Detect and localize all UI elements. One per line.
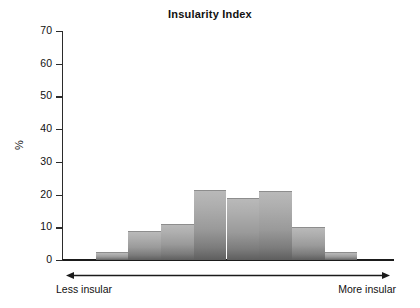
- y-axis-tick: [56, 129, 63, 130]
- y-axis-label: %: [13, 140, 25, 150]
- y-axis-tick: [56, 96, 63, 97]
- y-axis-tick: [56, 260, 63, 261]
- y-axis-tick: [56, 162, 63, 163]
- histogram-bar: [128, 231, 161, 260]
- y-axis-tick-label: 40: [18, 123, 52, 134]
- axis-end-label-less-insular: Less insular: [56, 283, 112, 295]
- y-axis-tick-label: 20: [18, 189, 52, 200]
- y-axis-tick-label: 60: [18, 58, 52, 69]
- histogram-bar: [194, 190, 227, 260]
- y-axis-tick-label: 0: [18, 254, 52, 265]
- y-axis-tick: [56, 64, 63, 65]
- y-axis-tick: [56, 31, 63, 32]
- histogram-bar: [292, 227, 325, 260]
- chart-title: Insularity Index: [0, 8, 420, 20]
- arrow-left-icon: [66, 272, 74, 279]
- histogram-bar: [227, 198, 260, 260]
- histogram-bars: [63, 31, 390, 260]
- y-axis-tick-label: 70: [18, 25, 52, 36]
- y-axis-tick-label: 10: [18, 221, 52, 232]
- y-axis-tick: [56, 227, 63, 228]
- arrow-right-icon: [382, 272, 390, 279]
- histogram-bar: [96, 252, 129, 260]
- histogram-bar: [259, 191, 292, 260]
- axis-end-label-more-insular: More insular: [338, 283, 396, 295]
- y-axis-tick-label: 50: [18, 90, 52, 101]
- insularity-direction-arrow: [66, 271, 390, 280]
- insularity-index-figure: Insularity Index % 010203040506070 Less …: [0, 0, 420, 308]
- histogram-bar: [161, 224, 194, 260]
- histogram-bar: [325, 252, 358, 260]
- y-axis-tick: [56, 195, 63, 196]
- y-axis-tick-label: 30: [18, 156, 52, 167]
